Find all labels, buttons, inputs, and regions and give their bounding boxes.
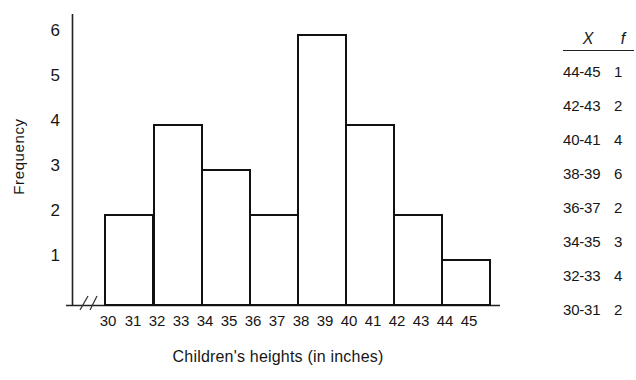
table-row: 44-45 1 — [563, 55, 636, 89]
bar-42-43 — [394, 215, 442, 305]
table-row: 40-41 4 — [563, 123, 636, 157]
column-header-x: X — [563, 30, 613, 48]
x-axis-title: Children's heights (in inches) — [58, 348, 498, 366]
frequency-table-rule — [563, 50, 634, 51]
column-header-f: f — [613, 30, 633, 48]
table-row: 38-39 6 — [563, 157, 636, 191]
table-cell-frequency: 3 — [614, 225, 634, 259]
bar-40-41 — [346, 125, 394, 305]
histogram-bars — [105, 35, 490, 305]
bar-30-31 — [105, 215, 153, 305]
table-cell-interval: 42-43 — [563, 89, 614, 123]
bar-32-33 — [154, 125, 202, 305]
bar-36-37 — [250, 215, 298, 305]
chart-area: Frequency 6 5 4 3 2 1 — [0, 0, 530, 380]
table-cell-frequency: 2 — [614, 191, 634, 225]
table-cell-interval: 44-45 — [563, 55, 614, 89]
bar-44-45 — [442, 260, 490, 305]
table-row: 42-43 2 — [563, 89, 636, 123]
table-cell-interval: 36-37 — [563, 191, 614, 225]
table-cell-frequency: 1 — [614, 55, 634, 89]
table-row: 36-37 2 — [563, 191, 636, 225]
bar-38-39 — [298, 35, 346, 305]
table-cell-frequency: 4 — [614, 259, 634, 293]
table-cell-interval: 30-31 — [563, 293, 614, 327]
histogram-figure: Frequency 6 5 4 3 2 1 — [0, 0, 636, 380]
frequency-table-header-row: X f — [563, 30, 636, 50]
table-cell-frequency: 4 — [614, 123, 634, 157]
table-cell-frequency: 2 — [614, 89, 634, 123]
table-cell-frequency: 6 — [614, 157, 634, 191]
table-cell-interval: 34-35 — [563, 225, 614, 259]
table-row: 34-35 3 — [563, 225, 636, 259]
table-cell-interval: 40-41 — [563, 123, 614, 157]
axis-break-icon — [80, 296, 97, 310]
table-row: 30-31 2 — [563, 293, 636, 327]
frequency-table: X f 44-45 1 42-43 2 40-41 4 38-39 6 36-3… — [563, 30, 636, 327]
x-tick-label-45: 45 — [454, 313, 484, 328]
table-cell-frequency: 2 — [614, 293, 634, 327]
bar-34-35 — [202, 170, 250, 305]
table-cell-interval: 32-33 — [563, 259, 614, 293]
table-cell-interval: 38-39 — [563, 157, 614, 191]
table-row: 32-33 4 — [563, 259, 636, 293]
